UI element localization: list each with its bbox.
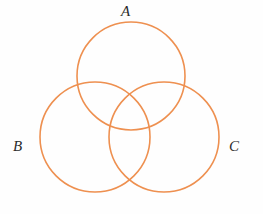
- venn-label-a: A: [121, 4, 130, 19]
- venn-diagram-canvas: [0, 0, 263, 214]
- venn-diagram-figure: A B C: [0, 0, 263, 214]
- venn-label-b: B: [13, 139, 22, 154]
- venn-label-c: C: [229, 139, 239, 154]
